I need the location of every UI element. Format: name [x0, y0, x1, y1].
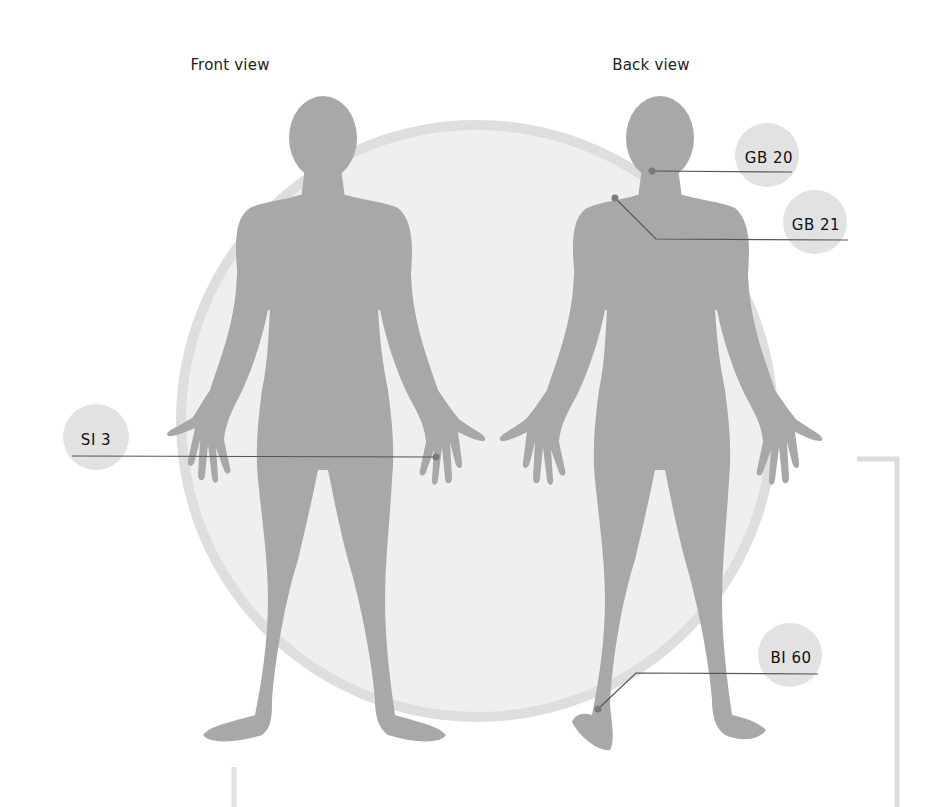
- diagram-svg: [0, 0, 932, 807]
- point-dot-bi60: [595, 706, 602, 713]
- point-label-bi60: BI 60: [770, 649, 811, 667]
- point-dot-si3: [433, 454, 440, 461]
- point-dot-gb20: [649, 168, 656, 175]
- right-bracket: [857, 459, 897, 807]
- back-view-title: Back view: [612, 56, 690, 74]
- front-view-title: Front view: [190, 56, 269, 74]
- point-label-gb20: GB 20: [745, 149, 793, 167]
- point-dot-gb21: [612, 195, 619, 202]
- acupressure-diagram: Front view Back view SI 3 GB 20 GB 21 BI…: [0, 0, 932, 807]
- point-label-gb21: GB 21: [792, 216, 840, 234]
- point-label-si3: SI 3: [81, 431, 111, 449]
